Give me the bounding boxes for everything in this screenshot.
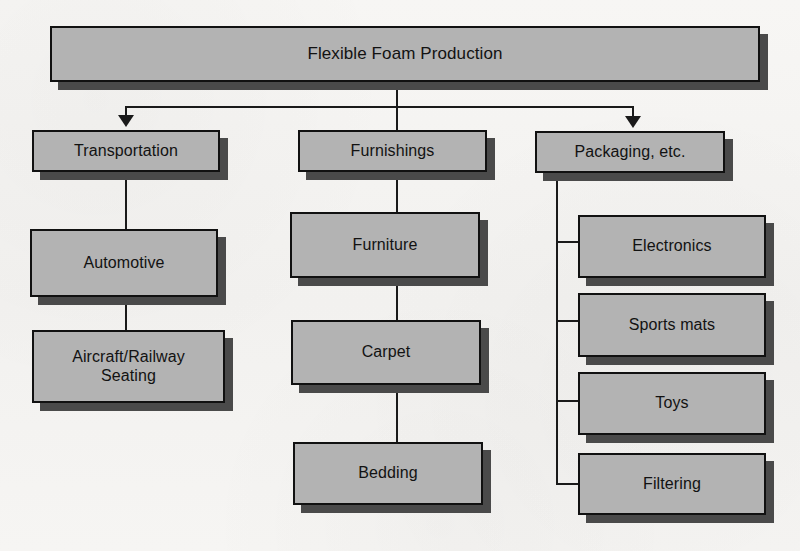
node-furniture[interactable]: Furniture: [290, 212, 480, 278]
connector-packaging-spine: [556, 172, 558, 485]
node-label: Automotive: [79, 254, 168, 273]
node-packaging[interactable]: Packaging, etc.: [535, 131, 725, 173]
node-label: Furnishings: [347, 142, 439, 161]
node-label: Carpet: [358, 343, 415, 362]
node-label: Furniture: [349, 236, 422, 255]
connector-distribution-bar: [125, 106, 634, 108]
node-filtering[interactable]: Filtering: [578, 453, 766, 515]
connector-transportation-automotive: [125, 172, 127, 229]
connector-spine-electronics: [556, 241, 580, 243]
node-electronics[interactable]: Electronics: [578, 215, 766, 278]
arrowhead-transportation: [118, 115, 134, 127]
arrowhead-packaging: [625, 116, 641, 128]
connector-carpet-bedding: [396, 385, 398, 442]
node-label: Toys: [651, 394, 692, 413]
connector-drop-furnishings: [396, 106, 398, 130]
node-furnishings[interactable]: Furnishings: [298, 130, 487, 172]
node-label: Bedding: [354, 464, 421, 483]
node-bedding[interactable]: Bedding: [293, 442, 483, 505]
node-automotive[interactable]: Automotive: [30, 229, 218, 297]
node-aircraft-railway-seating[interactable]: Aircraft/Railway Seating: [32, 330, 225, 403]
node-toys[interactable]: Toys: [578, 372, 766, 435]
node-label: Sports mats: [625, 316, 719, 335]
node-label: Aircraft/Railway Seating: [68, 348, 189, 386]
flowchart-canvas: Flexible Foam Production Transportation …: [0, 0, 800, 551]
connector-spine-toys: [556, 400, 580, 402]
node-label: Packaging, etc.: [571, 143, 690, 162]
connector-spine-filtering: [556, 483, 580, 485]
node-label: Flexible Foam Production: [303, 44, 506, 64]
node-transportation[interactable]: Transportation: [32, 130, 220, 172]
node-label: Electronics: [628, 237, 715, 256]
node-sports-mats[interactable]: Sports mats: [578, 293, 766, 357]
node-label: Filtering: [639, 475, 705, 494]
node-label: Transportation: [70, 142, 182, 161]
connector-spine-sports-mats: [556, 320, 580, 322]
node-carpet[interactable]: Carpet: [291, 320, 481, 385]
node-flexible-foam-production[interactable]: Flexible Foam Production: [50, 26, 760, 82]
